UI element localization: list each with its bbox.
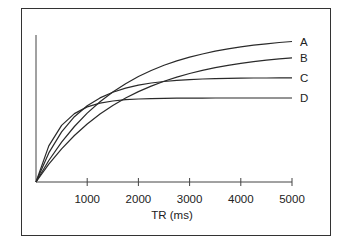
x-axis-title: TR (ms) (151, 209, 193, 221)
curve-a (36, 42, 292, 183)
x-tick-label: 5000 (279, 193, 305, 205)
x-tick-label: 4000 (228, 193, 254, 205)
curve-label-a: A (300, 36, 308, 48)
curve-label-d: D (300, 92, 308, 104)
curve-d (36, 98, 292, 182)
x-tick-label: 1000 (74, 193, 100, 205)
curves (36, 42, 292, 183)
curve-label-b: B (300, 52, 308, 64)
curve-label-c: C (300, 72, 308, 84)
saturation-recovery-chart: 10002000300040005000 ABCD TR (ms) (0, 0, 343, 249)
curve-c (36, 78, 292, 182)
curve-labels: ABCD (300, 36, 308, 105)
x-tick-label: 3000 (177, 193, 203, 205)
x-tick-label: 2000 (126, 193, 152, 205)
curve-b (36, 58, 292, 182)
